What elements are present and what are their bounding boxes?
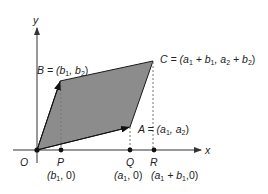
point-p-name: P (57, 156, 64, 168)
y-axis-label: y (32, 14, 39, 26)
point-a-label: A = (a1, a2) (137, 123, 189, 136)
x-axis-label: x (204, 144, 211, 156)
point-q (128, 148, 133, 153)
point-p-coords: (b1, 0) (47, 169, 75, 182)
point-r-coords: (a1 + b1,0) (151, 169, 198, 182)
point-p (59, 148, 64, 153)
point-q-name: Q (126, 156, 134, 168)
parallelogram-diagram: y x O B = (b1, b2) C = (a1 + b1, a2 + b2… (0, 0, 268, 194)
origin-label: O (20, 156, 28, 168)
point-r-name: R (150, 156, 158, 168)
origin-point (34, 147, 39, 152)
point-r (152, 148, 157, 153)
point-c-label: C = (a1 + b1, a2 + b2) (160, 53, 255, 66)
point-q-coords: (a1, 0) (114, 169, 142, 182)
point-b-label: B = (b1, b2) (37, 64, 88, 77)
diagram-svg: y x O B = (b1, b2) C = (a1 + b1, a2 + b2… (0, 0, 268, 194)
